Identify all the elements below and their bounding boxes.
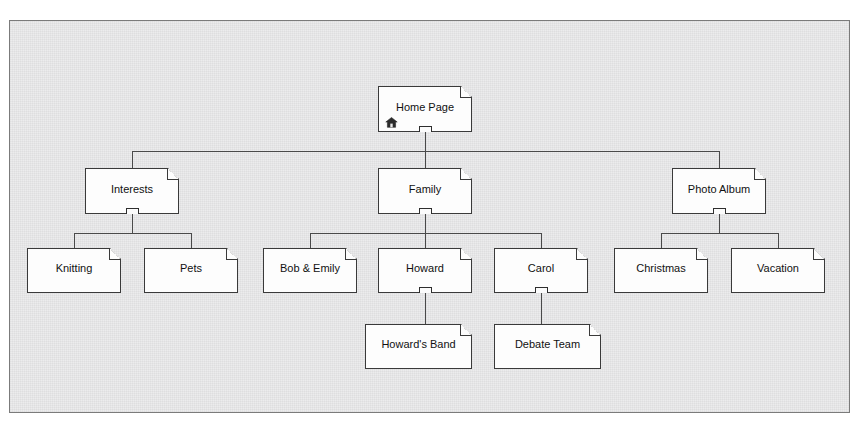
connector-family-to-carol [541,233,542,248]
node-label: Christmas [632,262,690,274]
node-label: Carol [524,262,558,274]
connector-photo-album-to-vacation [778,233,779,248]
node-howards-band[interactable]: Howard's Band [365,324,472,369]
node-label: Interests [107,183,157,195]
connector-home-to-photo-album [719,151,720,168]
diagram-frame: Home Page Interests Family Photo Album K… [9,20,850,413]
node-pets[interactable]: Pets [144,248,238,293]
connector-family-to-howard [425,233,426,248]
node-label: Knitting [52,262,97,274]
page-fold-corner [226,249,237,260]
connector-photo-album-to-christmas [661,233,662,248]
connector-family-stem [425,214,426,233]
node-bob-emily[interactable]: Bob & Emily [263,248,357,293]
connector-carol-to-debate-team [541,293,542,324]
connector-photo-album-stem [719,214,720,233]
page-fold-corner [813,249,824,260]
connector-interests-to-knitting [74,233,75,248]
node-label: Photo Album [684,183,754,195]
node-label: Debate Team [511,338,584,350]
node-vacation[interactable]: Vacation [731,248,825,293]
node-label: Family [405,183,445,195]
home-icon [385,117,398,128]
node-howard[interactable]: Howard [378,248,472,293]
node-label: Bob & Emily [276,262,344,274]
connector-home-to-family [425,151,426,168]
node-label: Pets [176,262,206,274]
screenshot-canvas: Home Page Interests Family Photo Album K… [0,0,862,435]
node-debate-team[interactable]: Debate Team [494,324,601,369]
node-label: Howard [402,262,448,274]
connector-interests-stem [132,214,133,233]
connector-interests-to-pets [191,233,192,248]
node-carol[interactable]: Carol [494,248,588,293]
node-knitting[interactable]: Knitting [27,248,121,293]
page-fold-corner [345,249,356,260]
node-photo-album[interactable]: Photo Album [672,168,766,214]
page-fold-corner [460,325,471,336]
page-fold-corner [576,249,587,260]
connector-interests-bus [74,233,191,234]
page-fold-corner [460,87,471,98]
connector-home-stem [425,131,426,152]
connector-howard-to-howards-band [425,293,426,324]
page-fold-corner [109,249,120,260]
page-fold-corner [754,169,765,180]
connector-family-to-bob-emily [310,233,311,248]
node-label: Home Page [392,101,458,113]
page-fold-corner [460,249,471,260]
page-fold-corner [167,169,178,180]
page-fold-corner [589,325,600,336]
node-family[interactable]: Family [378,168,472,214]
node-home-page[interactable]: Home Page [378,86,472,132]
connector-home-to-interests [132,151,133,168]
node-label: Howard's Band [377,338,459,350]
node-label: Vacation [753,262,803,274]
connector-photo-album-bus [661,233,778,234]
page-fold-corner [460,169,471,180]
node-christmas[interactable]: Christmas [614,248,708,293]
page-fold-corner [696,249,707,260]
node-interests[interactable]: Interests [85,168,179,214]
